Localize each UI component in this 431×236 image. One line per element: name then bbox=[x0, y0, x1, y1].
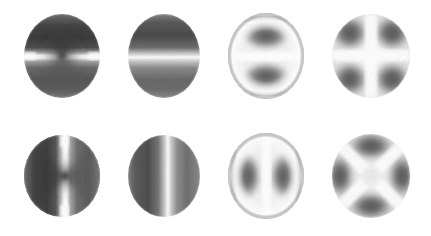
mode-pattern-disc bbox=[24, 135, 100, 217]
disc-render-panel-1 bbox=[24, 14, 100, 98]
mode-pattern-disc bbox=[228, 133, 304, 219]
mode-pattern-disc bbox=[332, 134, 410, 218]
disc-render-panel-3 bbox=[228, 13, 304, 99]
mode-pattern-disc bbox=[332, 14, 410, 98]
mode-pattern-disc bbox=[128, 14, 200, 98]
disc-render-panel-5 bbox=[24, 135, 100, 217]
disc-render-panel-6 bbox=[128, 135, 200, 217]
disc-render-panel-2 bbox=[128, 14, 200, 98]
mode-pattern-disc bbox=[228, 13, 304, 99]
mode-pattern-disc bbox=[128, 135, 200, 217]
disc-render-panel-4 bbox=[332, 14, 410, 98]
mode-pattern-disc bbox=[24, 14, 100, 98]
disc-render-panel-8 bbox=[332, 134, 410, 218]
figure-panel bbox=[0, 0, 431, 236]
disc-render-panel-7 bbox=[228, 133, 304, 219]
